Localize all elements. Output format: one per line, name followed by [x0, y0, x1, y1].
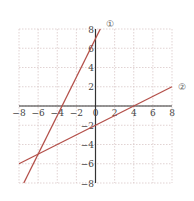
line-1-label: ①: [106, 19, 114, 29]
x-tick-label: 6: [150, 108, 156, 118]
y-tick-label: −8: [81, 179, 95, 189]
x-tick-label: 0: [93, 108, 99, 118]
x-tick-label: −2: [70, 108, 83, 118]
coordinate-plane: −8−6−4−202468−8−6−4−22468①②: [0, 0, 194, 201]
y-tick-label: 8: [88, 25, 94, 35]
y-tick-label: −6: [81, 159, 95, 169]
line-2-label: ②: [178, 82, 186, 92]
y-tick-label: −4: [81, 140, 95, 150]
x-tick-label: −8: [12, 108, 26, 118]
x-tick-label: −6: [31, 108, 45, 118]
y-tick-label: 2: [88, 82, 94, 92]
y-tick-label: 4: [88, 63, 94, 73]
x-tick-label: 8: [169, 108, 175, 118]
x-tick-label: 4: [131, 108, 137, 118]
